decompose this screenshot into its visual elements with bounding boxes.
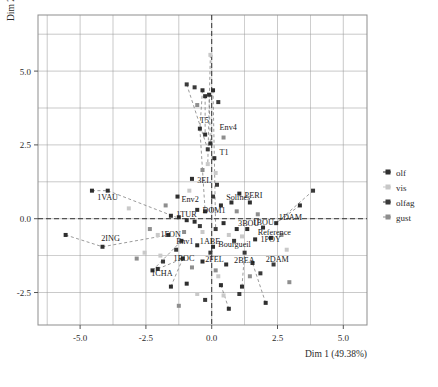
data-point bbox=[216, 274, 220, 278]
point-label: 1VAU bbox=[97, 193, 118, 202]
data-point bbox=[203, 133, 207, 137]
point-label: DOM1 bbox=[203, 206, 226, 215]
data-point bbox=[174, 248, 178, 252]
point-label: Env4 bbox=[220, 123, 237, 132]
point-label: Solines bbox=[226, 193, 250, 202]
data-point bbox=[190, 265, 194, 269]
point-label: T5 bbox=[200, 116, 209, 125]
data-point bbox=[198, 224, 202, 228]
point-label: Env2 bbox=[181, 195, 198, 204]
x-tick-label: 2.5 bbox=[272, 333, 284, 343]
data-point bbox=[237, 292, 241, 296]
data-point bbox=[287, 280, 291, 284]
data-point bbox=[190, 177, 194, 181]
data-point bbox=[201, 230, 205, 234]
data-point bbox=[219, 283, 223, 287]
data-point bbox=[243, 251, 247, 255]
data-point bbox=[169, 214, 173, 218]
data-point bbox=[206, 147, 210, 151]
data-point bbox=[158, 254, 162, 258]
data-point bbox=[285, 248, 289, 252]
data-point bbox=[161, 260, 165, 264]
data-point bbox=[193, 220, 197, 224]
data-point bbox=[240, 285, 244, 289]
x-tick-label: 0.0 bbox=[206, 333, 218, 343]
x-axis-ticks: -5.0-2.50.02.55.0 bbox=[73, 325, 349, 343]
point-label: T1 bbox=[220, 148, 229, 157]
data-point bbox=[100, 245, 104, 249]
legend-label-gust: gust bbox=[396, 213, 412, 223]
data-point bbox=[187, 189, 191, 193]
data-point bbox=[208, 141, 212, 145]
chart-canvas: -5.0-2.50.02.55.05.02.50.0-2.5Dim 1 (49.… bbox=[0, 0, 438, 387]
data-point bbox=[182, 230, 186, 234]
point-label: 2BEA bbox=[234, 256, 255, 265]
data-point bbox=[201, 260, 205, 264]
data-point bbox=[148, 227, 152, 231]
data-point bbox=[185, 82, 189, 86]
data-point bbox=[169, 285, 173, 289]
data-point bbox=[227, 307, 231, 311]
data-point bbox=[253, 237, 257, 241]
legend-marker-olf bbox=[386, 170, 391, 175]
point-label: Bourgueil bbox=[218, 240, 251, 249]
point-label: Env1 bbox=[176, 237, 193, 246]
point-label: 1POY bbox=[260, 235, 281, 244]
data-point bbox=[195, 243, 199, 247]
y-axis-ticks: 5.02.50.0-2.5 bbox=[17, 67, 38, 298]
data-point bbox=[214, 227, 218, 231]
data-point bbox=[211, 88, 215, 92]
y-tick-label: 5.0 bbox=[20, 67, 32, 77]
data-point bbox=[177, 304, 181, 308]
data-point bbox=[203, 298, 207, 302]
point-label: 2DAM bbox=[266, 255, 290, 264]
data-point bbox=[203, 94, 207, 98]
data-point bbox=[258, 271, 262, 275]
point-label: 1TUR bbox=[176, 210, 197, 219]
data-point bbox=[208, 53, 212, 57]
data-point bbox=[248, 274, 252, 278]
legend-label-olfag: olfag bbox=[396, 198, 415, 208]
point-label: 2FEL bbox=[205, 255, 224, 264]
data-point bbox=[90, 189, 94, 193]
legend-label-olf: olf bbox=[396, 168, 406, 178]
legend-marker-gust bbox=[386, 215, 391, 220]
legend-label-vis: vis bbox=[396, 183, 407, 193]
data-point bbox=[214, 268, 218, 272]
data-point bbox=[201, 88, 205, 92]
data-point bbox=[298, 203, 302, 207]
data-point bbox=[206, 162, 210, 166]
point-label: 1DAM bbox=[279, 213, 303, 222]
data-point bbox=[64, 233, 68, 237]
data-point bbox=[175, 195, 179, 199]
legend-marker-vis bbox=[386, 185, 391, 190]
point-label: 1CHA bbox=[151, 269, 172, 278]
data-point bbox=[222, 293, 226, 297]
x-tick-label: 5.0 bbox=[338, 333, 350, 343]
data-point bbox=[195, 103, 199, 107]
data-point bbox=[227, 233, 231, 237]
data-point bbox=[222, 136, 226, 140]
point-label: 3EL bbox=[197, 176, 211, 185]
y-tick-label: 2.5 bbox=[20, 140, 32, 150]
data-point bbox=[311, 189, 315, 193]
x-tick-label: -2.5 bbox=[139, 333, 154, 343]
data-point bbox=[135, 257, 139, 261]
data-point bbox=[212, 156, 216, 160]
data-point bbox=[264, 301, 268, 305]
scatter-plot-figure: -5.0-2.50.02.55.05.02.50.0-2.5Dim 1 (49.… bbox=[0, 0, 438, 387]
x-tick-label: -5.0 bbox=[73, 333, 88, 343]
data-point bbox=[195, 292, 199, 296]
data-point bbox=[143, 251, 147, 255]
data-point bbox=[127, 206, 131, 210]
legend: olfvisolfaggust bbox=[383, 168, 415, 223]
y-tick-label: 0.0 bbox=[20, 214, 32, 224]
data-point bbox=[198, 127, 202, 131]
point-label: 1ABE bbox=[200, 237, 220, 246]
data-point bbox=[201, 168, 205, 172]
legend-marker-olfag bbox=[386, 200, 391, 205]
data-point bbox=[224, 262, 228, 266]
data-point bbox=[185, 282, 189, 286]
data-point bbox=[256, 212, 260, 216]
data-point bbox=[235, 209, 239, 213]
